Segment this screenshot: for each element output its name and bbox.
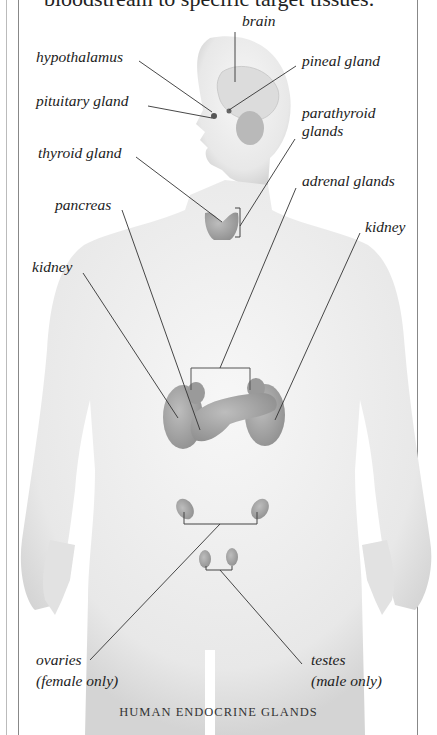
left-hand [43, 540, 75, 615]
label-adrenal-glands: adrenal glands [302, 172, 395, 190]
label-pancreas: pancreas [55, 196, 111, 214]
label-ovaries-line2: (female only) [36, 672, 118, 690]
right-hand [362, 540, 394, 615]
label-pineal-gland: pineal gland [302, 52, 380, 70]
label-thyroid-gland: thyroid gland [38, 144, 121, 162]
label-testes-line2: (male only) [311, 672, 382, 690]
label-kidney-right: kidney [365, 218, 405, 236]
label-ovaries-line1: ovaries [36, 651, 82, 669]
head [196, 36, 291, 188]
torso [21, 180, 431, 735]
label-brain: brain [242, 12, 276, 30]
label-parathyroid-line2: glands [302, 122, 343, 140]
testis-right-shape [226, 548, 238, 566]
label-hypothalamus: hypothalamus [36, 48, 123, 66]
label-testes-line1: testes [311, 651, 345, 669]
testis-left-shape [199, 550, 211, 568]
figure-caption: HUMAN ENDOCRINE GLANDS [0, 705, 437, 720]
label-kidney-left: kidney [32, 258, 72, 276]
label-parathyroid-line1: parathyroid [302, 104, 375, 122]
label-pituitary-gland: pituitary gland [36, 92, 129, 110]
